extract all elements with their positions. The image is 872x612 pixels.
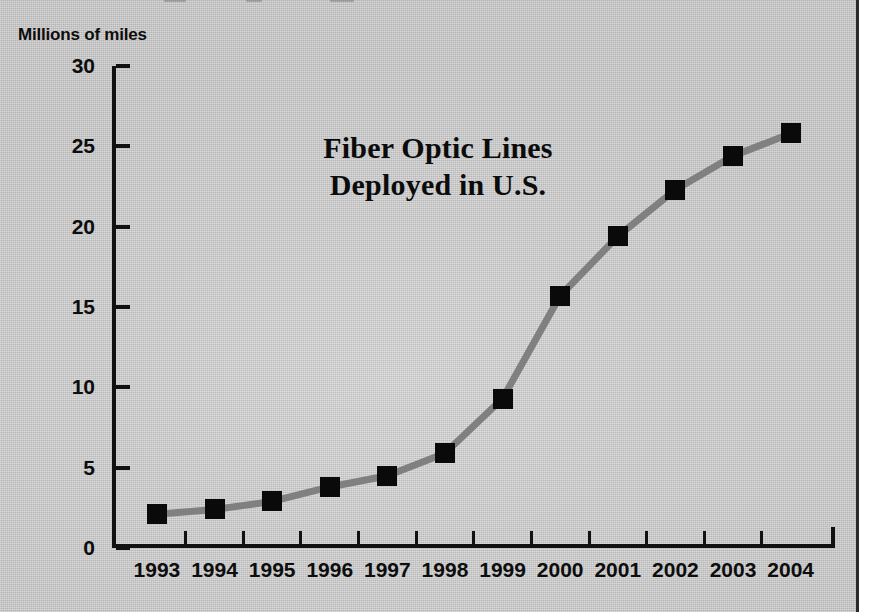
data-point-marker	[262, 491, 282, 511]
y-axis-tick-label: 0	[51, 536, 111, 560]
data-point-marker	[550, 286, 570, 306]
data-point-marker	[723, 146, 743, 166]
plot-area: 051015202530 199319941995199619971998199…	[112, 66, 835, 548]
y-axis-tick-label: 10	[51, 375, 111, 399]
page-bleed-smudge	[0, 0, 859, 7]
chart-figure: Millions of miles Fiber Optic Lines Depl…	[0, 0, 872, 612]
data-point-marker	[665, 180, 685, 200]
chart-plate: Millions of miles Fiber Optic Lines Depl…	[0, 0, 859, 612]
data-point-marker	[435, 443, 455, 463]
y-axis-tick-label: 30	[51, 54, 111, 78]
data-point-marker	[493, 389, 513, 409]
x-axis-tick-label: 2003	[710, 558, 757, 582]
data-point-marker	[320, 477, 340, 497]
y-axis-tick-label: 20	[51, 215, 111, 239]
data-point-marker	[147, 504, 167, 524]
data-point-marker	[377, 466, 397, 486]
series-line	[112, 66, 835, 548]
data-point-marker	[608, 226, 628, 246]
x-axis-tick-label: 2004	[767, 558, 814, 582]
x-axis-tick-label: 1997	[364, 558, 411, 582]
x-axis-tick-label: 1993	[134, 558, 181, 582]
x-axis-tick-label: 1999	[479, 558, 526, 582]
x-axis-tick-label: 2002	[652, 558, 699, 582]
x-axis-tick-label: 1994	[191, 558, 238, 582]
x-axis-tick-label: 2001	[594, 558, 641, 582]
y-axis-tick-label: 25	[51, 134, 111, 158]
y-axis-tick-label: 15	[51, 295, 111, 319]
y-axis-unit-label: Millions of miles	[18, 25, 147, 45]
y-axis-tick-label: 5	[51, 456, 111, 480]
x-axis-tick-label: 1998	[422, 558, 469, 582]
x-axis-tick-label: 1995	[249, 558, 296, 582]
data-point-marker	[781, 123, 801, 143]
x-axis-tick-label: 1996	[306, 558, 353, 582]
x-axis-tick-label: 2000	[537, 558, 584, 582]
data-point-marker	[205, 499, 225, 519]
